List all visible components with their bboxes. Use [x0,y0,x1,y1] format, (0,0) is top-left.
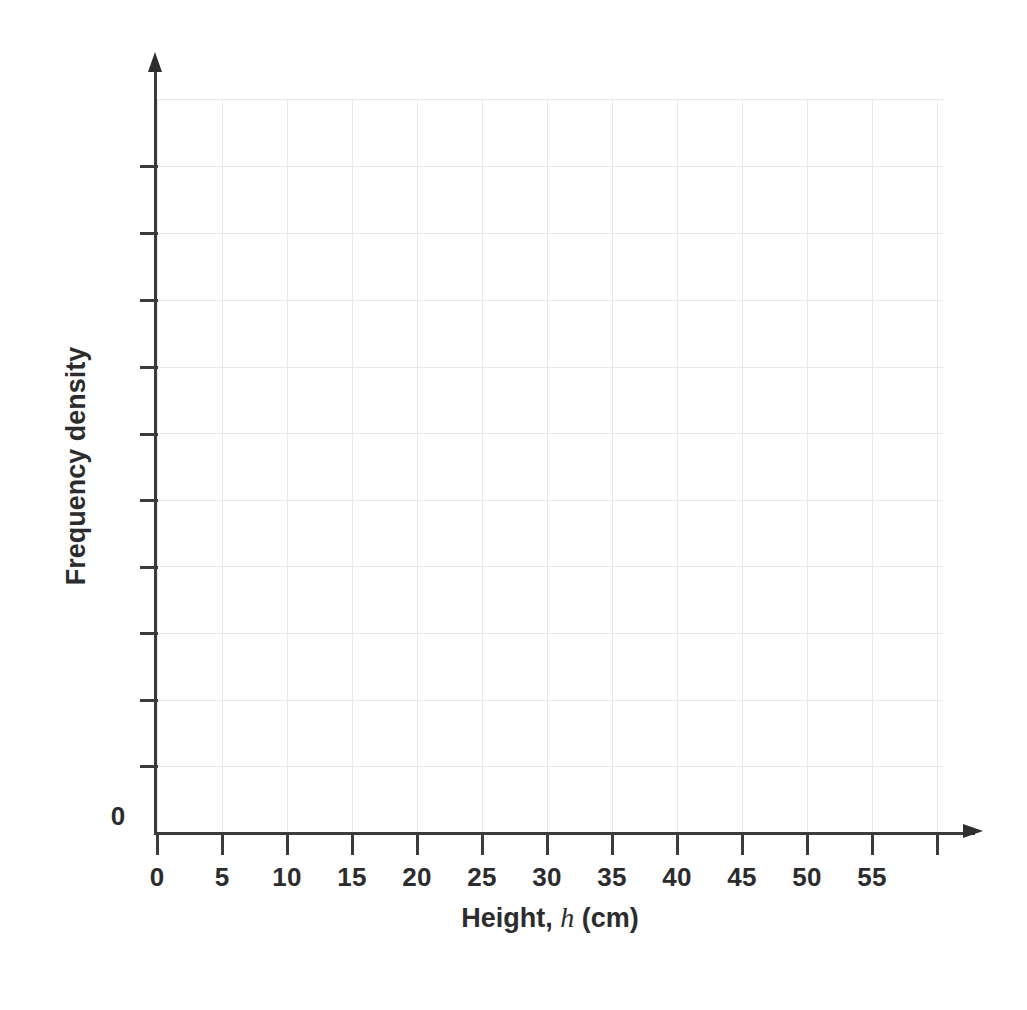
gridline-horizontal-5 [157,433,944,434]
x-axis-tick-label-0: 0 [150,862,165,893]
x-axis-tick-label-40: 40 [662,862,691,893]
x-axis-tick-2 [286,835,289,855]
x-axis-tick-8 [676,835,679,855]
chart-gridlines [157,99,944,833]
gridline-horizontal-7 [157,566,944,567]
x-axis-tick-label-10: 10 [272,862,301,893]
y-axis-tick-1 [140,232,158,235]
x-axis-tick-3 [351,835,354,855]
x-axis-tick-label-15: 15 [337,862,366,893]
gridline-horizontal-6 [157,500,944,501]
x-axis-tick-11 [871,835,874,855]
x-axis-tick-label-55: 55 [857,862,886,893]
y-axis-title: Frequency density [61,347,92,586]
x-axis-tick-9 [741,835,744,855]
y-axis-tick-0 [140,165,158,168]
gridline-horizontal-3 [157,300,944,301]
gridline-vertical-6 [547,99,548,833]
y-axis-tick-9 [140,765,158,768]
gridline-vertical-5 [482,99,483,833]
y-axis-tick-3 [140,366,158,369]
gridline-horizontal-0 [157,99,944,100]
gridline-vertical-9 [742,99,743,833]
gridline-vertical-0 [157,99,158,833]
gridline-vertical-7 [612,99,613,833]
y-axis-tick-6 [140,566,158,569]
y-axis-line [154,66,157,835]
gridline-vertical-4 [417,99,418,833]
x-axis-tick-6 [546,835,549,855]
gridline-vertical-3 [352,99,353,833]
y-axis-tick-2 [140,299,158,302]
x-axis-tick-10 [806,835,809,855]
x-axis-tick-label-50: 50 [792,862,821,893]
x-axis-tick-label-5: 5 [215,862,230,893]
x-axis-tick-label-25: 25 [467,862,496,893]
gridline-horizontal-9 [157,700,944,701]
y-axis-tick-8 [140,699,158,702]
gridline-horizontal-2 [157,233,944,234]
x-axis-line [157,832,975,835]
x-axis-tick-12 [936,835,939,855]
y-axis-tick-4 [140,433,158,436]
gridline-vertical-10 [807,99,808,833]
x-axis-title-suffix: (cm) [574,903,639,933]
gridline-horizontal-4 [157,367,944,368]
x-axis-title-variable: h [560,902,574,933]
gridline-vertical-1 [222,99,223,833]
x-axis-tick-0 [156,835,159,855]
gridline-vertical-8 [677,99,678,833]
y-axis-tick-7 [140,632,158,635]
gridline-horizontal-1 [157,166,944,167]
gridline-vertical-12 [937,99,938,833]
x-axis-title-prefix: Height, [461,903,560,933]
x-axis-tick-5 [481,835,484,855]
frequency-density-chart: 0 Height, h (cm) Frequency density 05101… [0,0,1027,1010]
x-axis-tick-4 [416,835,419,855]
x-axis-tick-label-20: 20 [402,862,431,893]
gridline-vertical-11 [872,99,873,833]
gridline-horizontal-8 [157,633,944,634]
x-axis-tick-1 [221,835,224,855]
gridline-vertical-2 [287,99,288,833]
y-axis-origin-label: 0 [111,801,125,832]
x-axis-tick-label-30: 30 [532,862,561,893]
x-axis-tick-label-35: 35 [597,862,626,893]
x-axis-tick-7 [611,835,614,855]
y-axis-tick-5 [140,499,158,502]
x-axis-arrowhead-icon [963,824,983,838]
x-axis-title: Height, h (cm) [461,902,639,934]
x-axis-tick-label-45: 45 [727,862,756,893]
gridline-horizontal-10 [157,766,944,767]
y-axis-arrowhead-icon [148,52,162,72]
